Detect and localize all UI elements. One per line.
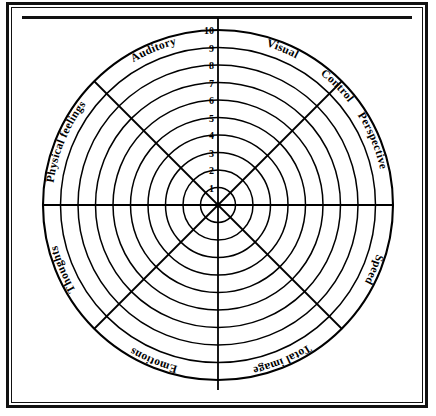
scale-tick-3: 3: [209, 148, 214, 159]
sector-label-thoughts: Thoughts: [47, 244, 77, 295]
scale-tick-4: 4: [209, 130, 214, 141]
scale-tick-10: 10: [204, 25, 214, 36]
sector-label-physical-feelings: Physical feelings: [44, 98, 88, 183]
scale-tick-1: 1: [209, 183, 214, 194]
scale-tick-7: 7: [209, 78, 214, 89]
sector-label-auditory: Auditory: [128, 35, 177, 64]
radial-scale-labels: 10987654321: [204, 25, 214, 194]
sector-label-emotions: Emotions: [127, 345, 178, 375]
radar-diagram-container: 10987654321 VisualAuditoryPhysical feeli…: [11, 7, 423, 403]
scale-tick-8: 8: [209, 60, 214, 71]
scale-tick-6: 6: [209, 95, 214, 106]
page-root: 10987654321 VisualAuditoryPhysical feeli…: [0, 0, 436, 416]
radar-chart: 10987654321 VisualAuditoryPhysical feeli…: [11, 7, 423, 403]
center-hub: [215, 202, 220, 207]
scale-tick-2: 2: [209, 165, 214, 176]
scale-tick-9: 9: [209, 43, 214, 54]
scale-tick-5: 5: [209, 113, 214, 124]
